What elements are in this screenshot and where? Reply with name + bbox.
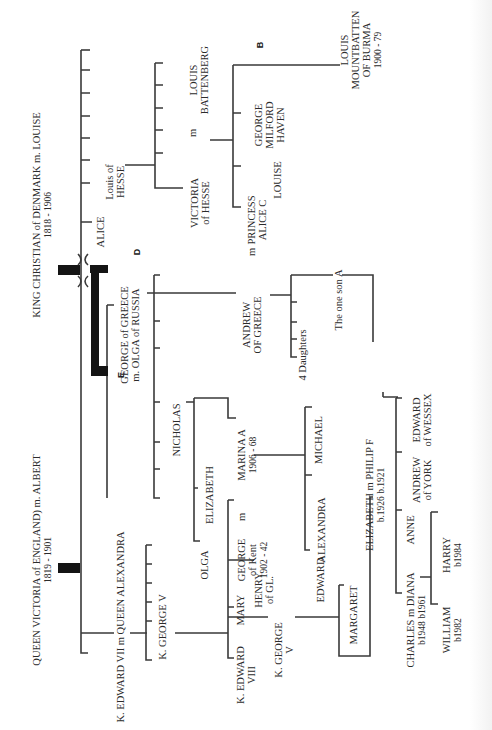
label-line: GEORGE	[236, 539, 247, 582]
label-m-3: m	[236, 513, 247, 521]
label-line: of GL.	[264, 576, 275, 604]
label-line: LOUISE	[272, 161, 283, 198]
label-line: MARY	[235, 594, 246, 625]
label-line: b1984	[453, 543, 463, 567]
label-line: OLGA	[199, 550, 210, 580]
label-line: HESSE	[115, 166, 126, 198]
family-tree-diagram: QUEEN VICTORIA of ENGLAND) m. ALBERT1819…	[0, 0, 492, 730]
label-line: HAVEN	[275, 107, 286, 143]
label-m-1: m	[187, 129, 198, 137]
label-william: WILLIAMb1982	[441, 606, 463, 653]
label-line: EDWARD	[411, 397, 422, 442]
label-line: KING CHRISTIAN of DENMARK m. LOUISE	[31, 112, 42, 317]
label-line: K. GEORGE	[273, 622, 284, 677]
label-line: MARINA A	[236, 429, 247, 481]
label-m-2: m	[246, 248, 257, 256]
label-christian: KING CHRISTIAN of DENMARK m. LOUISE1818 …	[31, 112, 53, 317]
label-line: 1906 - 68	[248, 437, 258, 474]
label-henry: HENRYof GL.	[253, 572, 275, 608]
label-line: BATTENBERG	[199, 45, 210, 114]
label-four-daughters: 4 Daughters	[297, 329, 308, 380]
label-louis-battenberg: LOUISBATTENBERG	[188, 45, 210, 114]
label-line: b1982	[453, 618, 463, 642]
label-anne: ANNE	[405, 515, 416, 544]
label-line: 1818 - 1906	[43, 192, 53, 238]
label-princess-alice: PRINCESSALICE C	[246, 195, 268, 244]
label-george-milford: GEORGEMILFORDHAVEN	[253, 101, 286, 149]
label-line: of HESSE	[200, 181, 211, 224]
label-olga: OLGA	[199, 550, 210, 580]
label-line: ALICE C	[257, 200, 268, 241]
label-charles: CHARLES m DIANAb1948 b1961	[405, 572, 427, 668]
label-line: of Kent	[247, 544, 258, 576]
label-line: HARRY	[441, 537, 452, 574]
label-line: EDWARD	[315, 557, 326, 602]
label-harry: HARRYb1984	[441, 537, 463, 574]
label-elizabeth-ii: ELIZABETH m PHILIP Fb.1926 b.1921	[364, 439, 386, 551]
label-line: ELIZABETH	[204, 466, 215, 524]
label-line: HENRY	[253, 572, 264, 608]
label-louis-hesse: Louis ofHESSE	[104, 164, 126, 200]
label-line: MARGARET	[348, 585, 359, 645]
label-line: m	[246, 248, 257, 256]
label-marker-b: B	[255, 41, 265, 48]
label-line: VIII	[246, 665, 257, 684]
label-line: GEORGE of GREECE	[119, 286, 130, 383]
label-line: CHARLES m DIANA	[405, 572, 416, 668]
label-victoria: QUEEN VICTORIA of ENGLAND) m. ALBERT1819…	[31, 454, 53, 666]
label-line: 4 Daughters	[297, 329, 308, 380]
label-line: The one son A	[333, 269, 344, 330]
label-line: ANDREW	[411, 457, 422, 503]
label-line: VICTORIA	[189, 178, 200, 228]
lineage-bars	[58, 254, 108, 573]
label-line: WILLIAM	[441, 606, 452, 653]
label-elizabeth-1: ELIZABETH	[204, 466, 215, 524]
label-line: Louis of	[104, 164, 115, 200]
label-line: QUEEN VICTORIA of ENGLAND) m. ALBERT	[31, 454, 43, 666]
label-nicholas: NICHOLAS	[171, 403, 182, 456]
label-edward-vii: K. EDWARD VII m QUEEN ALEXANDRA	[115, 531, 126, 723]
label-alice: ALICE	[95, 217, 106, 248]
victoria-marker	[58, 563, 80, 573]
label-george-vi: K. GEORGEV	[273, 622, 295, 677]
label-victoria-hesse: VICTORIAof HESSE	[189, 178, 211, 228]
label-line: b1948 b1961	[417, 595, 427, 645]
label-line: PRINCESS	[246, 195, 257, 244]
label-line: K. GEORGE V	[157, 594, 168, 660]
label-line: OF BURMA	[361, 22, 372, 77]
label-line: K. EDWARD VII m QUEEN ALEXANDRA	[115, 531, 126, 723]
label-marina: MARINA A1906 - 68	[236, 429, 258, 481]
label-margaret: MARGARET	[348, 585, 359, 645]
label-louise: LOUISE	[272, 161, 283, 198]
label-line: b.1926 b.1921	[376, 467, 386, 522]
label-andrew-greece: ANDREWOF GREECE	[241, 297, 263, 354]
label-line: 1900 - 79	[373, 32, 383, 69]
label-louis-mountbatten: LOUISMOUNTBATTENOF BURMA1900 - 79	[339, 10, 383, 89]
label-line: MOUNTBATTEN	[350, 10, 361, 89]
label-line: ALEXANDRA	[316, 497, 327, 563]
label-marker-d: D	[132, 248, 142, 255]
christian-bar	[91, 265, 99, 376]
label-andrew-york: ANDREWof YORK	[411, 457, 433, 503]
label-edward-wessex: EDWARDof WESSEX	[411, 393, 433, 447]
label-line: LOUIS	[188, 64, 199, 95]
label-line: m	[187, 129, 198, 137]
family-tree-page: QUEEN VICTORIA of ENGLAND) m. ALBERT1819…	[0, 0, 492, 730]
label-line: ANNE	[405, 515, 416, 544]
label-line: of YORK	[422, 459, 433, 500]
label-line: MILFORD	[264, 101, 275, 149]
label-line: ALICE	[95, 217, 106, 248]
label-line: B	[255, 41, 265, 48]
label-george-v-1: K. GEORGE V	[157, 594, 168, 660]
label-line: V	[284, 646, 295, 654]
label-michael: MICHAEL	[313, 416, 324, 464]
label-line: LOUIS	[339, 34, 350, 65]
christian-marker	[58, 265, 80, 275]
label-line: m	[236, 513, 247, 521]
christian-bar-bottom	[91, 366, 108, 376]
label-edward-kent: EDWARD	[315, 557, 326, 602]
label-line: of WESSEX	[422, 393, 433, 447]
label-edward-viii: K. EDWARDVIII	[235, 646, 257, 704]
label-line: MICHAEL	[313, 416, 324, 464]
label-line: ANDREW	[241, 302, 252, 348]
